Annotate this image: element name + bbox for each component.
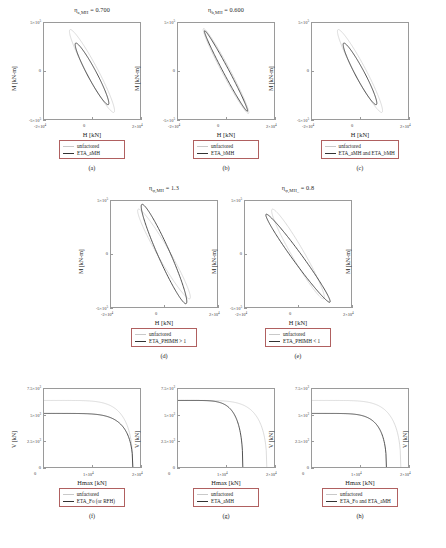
ytick-mark (311, 415, 314, 416)
ytick-mark (244, 308, 247, 309)
ytick-exponent: 3 (39, 412, 41, 416)
ytick-exponent: 5 (173, 19, 175, 23)
xtick-mark (43, 117, 44, 120)
panel-h: 7.5×1035×1032.5×103001×1042×104V [kN]Hma… (271, 372, 446, 548)
xtick-mark (177, 465, 178, 468)
title-value: = 1.3 (164, 184, 179, 191)
series-unfactored (312, 400, 401, 467)
ytick-mark (311, 468, 314, 469)
ytick-exponent: 5 (106, 197, 108, 201)
legend-entry-eta: ETA_Fo and ETA_aMH (326, 498, 394, 505)
ytick-mantissa: 2.5×10 (161, 440, 173, 445)
legend-label: ETA_aMH and ETA_bMH (339, 150, 395, 157)
series-eta (312, 413, 386, 467)
ytick-g-1: 5×103 (164, 412, 175, 418)
legend-swatch-icon (326, 494, 337, 495)
ytick-exponent: 3 (173, 412, 175, 416)
xtick-g-0: 0 (168, 471, 170, 476)
legend-entry-unfactored: unfactored (269, 331, 327, 338)
legend-f: unfactoredETA_Fo (or RFH) (59, 488, 126, 507)
ytick-mantissa: 0 (39, 68, 41, 73)
legend-entry-unfactored: unfactored (63, 491, 122, 498)
ytick-a-0: 5×105 (30, 19, 41, 25)
xtick-mantissa: 0 (34, 471, 36, 476)
legend-swatch-icon (63, 153, 74, 154)
ytick-f-3: 0 (39, 465, 41, 470)
panel-letter-b: (b) (206, 164, 246, 171)
series-eta (343, 43, 377, 105)
legend-label: unfactored (77, 143, 99, 150)
legend-label: ETA_aMH (77, 150, 100, 157)
legend-swatch-icon (63, 146, 74, 147)
series-unfactored (69, 30, 114, 113)
xtick-mantissa: -2×10 (101, 312, 112, 317)
xtick-a-0: -2×104 (34, 123, 46, 129)
ytick-g-0: 7.5×103 (161, 385, 175, 391)
legend-swatch-icon (197, 146, 208, 147)
xtick-mark (244, 305, 245, 308)
ytick-g-2: 2.5×103 (161, 438, 175, 444)
xaxis-label-h: Hmax [kN] (311, 479, 409, 486)
xtick-mark (352, 305, 353, 308)
panel-letter-f: (f) (72, 512, 112, 519)
legend-b: unfactoredETA_bMH (193, 140, 259, 159)
ytick-mark (43, 441, 46, 442)
xtick-d-1: 0 (155, 311, 157, 316)
ytick-mark (43, 120, 46, 121)
legend-g: unfactoredETA_aMH (193, 488, 259, 507)
panel-c: 5×1050-5×105-2×10402×104H [kN]unfactored… (271, 6, 446, 204)
figure-canvas: ηa,MH = 0.7005×1050-5×105-2×10402×104M [… (0, 0, 446, 548)
xaxis-label-a: H [kN] (43, 131, 141, 138)
ytick-mark (177, 468, 180, 469)
legend-label: unfactored (211, 491, 233, 498)
xtick-mantissa: 2×10 (400, 124, 409, 129)
legend-swatch-icon (63, 494, 74, 495)
xtick-mantissa: 0 (168, 471, 170, 476)
xtick-c-2: 2×104 (400, 123, 411, 129)
xtick-mantissa: 0 (217, 123, 219, 128)
ytick-d-0: 5×105 (97, 197, 108, 203)
xtick-d-0: -2×104 (101, 311, 113, 317)
ytick-f-0: 7.5×103 (27, 385, 41, 391)
ytick-mark (311, 388, 314, 389)
xtick-mantissa: 0 (351, 123, 353, 128)
legend-entry-eta: ETA_PHIMH < 1 (269, 338, 327, 345)
xtick-mark (164, 305, 165, 308)
title-subscript: φ,MH_ (285, 188, 299, 193)
xaxis-label-c: H [kN] (311, 131, 409, 138)
ytick-exponent: 5 (39, 19, 41, 23)
xtick-f-0: 0 (34, 471, 36, 476)
ytick-mark (43, 71, 46, 72)
ytick-mark (177, 120, 180, 121)
xtick-exponent: 4 (313, 123, 315, 127)
xtick-h-2: 2×104 (400, 471, 411, 477)
legend-label: unfactored (211, 143, 233, 150)
xtick-exponent: 4 (226, 471, 228, 475)
legend-swatch-icon (197, 494, 208, 495)
xtick-exponent: 4 (409, 123, 411, 127)
xtick-mantissa: 1×10 (83, 472, 92, 477)
xtick-exponent: 4 (360, 471, 362, 475)
xtick-e-1: 0 (289, 311, 291, 316)
ytick-f-1: 5×103 (30, 412, 41, 418)
plot-area-f (43, 388, 141, 468)
ytick-mark (244, 200, 247, 201)
ytick-h-3: 0 (307, 465, 309, 470)
xtick-b-1: 0 (217, 123, 219, 128)
legend-swatch-icon (63, 501, 74, 502)
plot-area-g (177, 388, 275, 468)
curves-b (178, 23, 274, 119)
xtick-mark (92, 117, 93, 120)
ytick-mantissa: 2.5×10 (27, 440, 39, 445)
legend-swatch-icon (325, 153, 336, 154)
ytick-f-2: 2.5×103 (27, 438, 41, 444)
xtick-mantissa: -2×10 (235, 312, 246, 317)
curves-f (44, 389, 140, 467)
legend-entry-eta: ETA_aMH (63, 150, 121, 157)
ytick-exponent: 3 (173, 385, 175, 389)
legend-entry-eta: ETA_bMH (197, 150, 255, 157)
series-unfactored (272, 209, 325, 299)
curves-c (312, 23, 408, 119)
series-unfactored (203, 29, 249, 114)
xaxis-label-b: H [kN] (177, 131, 275, 138)
